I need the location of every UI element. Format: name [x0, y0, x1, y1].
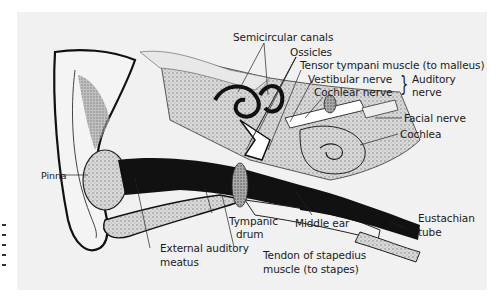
auditory-brace: }	[400, 71, 408, 97]
label-auditory-nerve-2: nerve	[412, 86, 442, 98]
page-edge-mark	[2, 264, 6, 266]
tympanic-membrane	[232, 163, 248, 207]
label-eustachian-tube-1: Eustachian	[418, 212, 475, 224]
ear-illustration	[0, 0, 504, 300]
concha	[83, 150, 127, 210]
label-tympanic-drum-1: Tympanic	[229, 215, 278, 227]
label-vestibular-nerve: Vestibular nerve	[308, 73, 392, 85]
label-auditory-nerve-1: Auditory	[412, 73, 456, 85]
label-middle-ear: Middle ear	[295, 217, 349, 229]
label-cochlea: Cochlea	[400, 128, 441, 140]
label-stapedius-2: muscle (to stapes)	[263, 263, 359, 275]
page-edge-mark	[2, 244, 6, 246]
label-eustachian-tube-2: tube	[418, 226, 442, 238]
page-edge-mark	[2, 224, 6, 226]
label-stapedius-1: Tendon of stapedius	[263, 249, 366, 261]
label-ossicles: Ossicles	[290, 46, 332, 58]
label-pinna: Pinna	[41, 170, 67, 182]
label-external-meatus-1: External auditory	[160, 242, 249, 254]
label-facial-nerve: Facial nerve	[404, 112, 466, 124]
label-tympanic-drum-2: drum	[236, 228, 263, 240]
label-semicircular-canals: Semicircular canals	[233, 31, 333, 43]
label-external-meatus-2: meatus	[160, 256, 199, 268]
page-edge-mark	[2, 254, 6, 256]
label-tensor-tympani: Tensor tympani muscle (to malleus)	[300, 59, 484, 71]
label-cochlear-nerve: Cochlear nerve	[314, 86, 392, 98]
page-edge-mark	[2, 234, 6, 236]
